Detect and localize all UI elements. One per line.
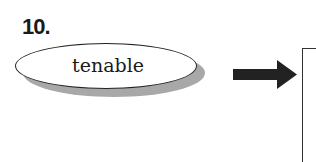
answer-box[interactable] [302,48,316,162]
vocabulary-word: tenable [72,54,144,76]
word-bubble: tenable [15,43,215,99]
word-ellipse: tenable [15,43,197,89]
exercise-number: 10. [22,14,50,40]
right-arrow-icon [233,60,297,94]
